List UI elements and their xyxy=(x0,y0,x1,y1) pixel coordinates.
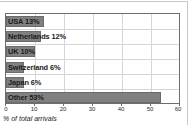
tick-label-50: 50 xyxy=(147,106,154,112)
chart-frame: USA 13% Netherlands 12% UK 10% Switzerla… xyxy=(0,1,188,125)
tick-label-0: 0 xyxy=(4,106,7,112)
bar-label-uk: UK 10% xyxy=(8,46,35,57)
bar-label-other: Other 53% xyxy=(8,92,44,103)
bar-label-netherlands: Netherlands 12% xyxy=(8,31,66,42)
gridline-horizontal-4 xyxy=(6,74,179,75)
bar-label-usa: USA 13% xyxy=(8,16,39,27)
gridline-horizontal-1 xyxy=(6,29,179,30)
tick-label-30: 30 xyxy=(89,106,96,112)
plot-area: USA 13% Netherlands 12% UK 10% Switzerla… xyxy=(5,13,180,104)
x-axis-title: % of total arrivals xyxy=(3,115,57,122)
tick-label-60: 60 xyxy=(175,106,182,112)
tick-label-20: 20 xyxy=(60,106,67,112)
tick-label-10: 10 xyxy=(31,106,38,112)
bar-label-japan: Japan 6% xyxy=(8,77,41,88)
gridline-horizontal-2 xyxy=(6,44,179,45)
tick-label-40: 40 xyxy=(118,106,125,112)
gridline-horizontal-3 xyxy=(6,59,179,60)
bar-label-switzerland: Switzerland 6% xyxy=(8,62,60,73)
gridline-horizontal-5 xyxy=(6,89,179,90)
x-axis: 0 10 20 30 40 50 60 xyxy=(5,104,180,114)
